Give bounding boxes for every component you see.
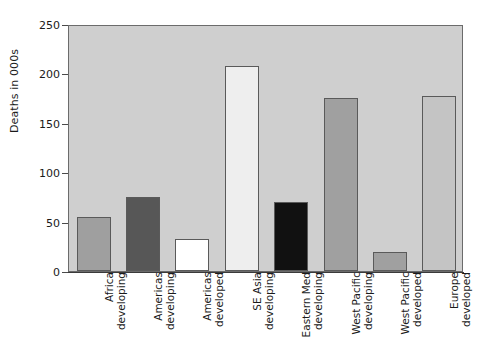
y-axis-tick-label: 250 xyxy=(30,19,60,32)
x-axis-tick-label-line: developing xyxy=(263,272,275,344)
bar xyxy=(225,66,259,271)
x-axis-tick-label-line: West Pacific xyxy=(400,272,412,344)
y-axis-tick-labels: 050100150200250 xyxy=(30,15,60,285)
y-axis-tick-mark xyxy=(62,173,68,174)
x-axis-tick-label-line: SE Asia xyxy=(252,272,264,344)
x-axis-tick-label: Europedeveloped xyxy=(449,272,479,344)
x-axis-tick-labels: AfricadevelopingAmericasdevelopingAmeric… xyxy=(68,274,463,346)
x-axis-tick-label-line: West Pacific xyxy=(351,272,363,344)
y-axis-tick-mark xyxy=(62,124,68,125)
plot-area xyxy=(68,25,463,272)
x-axis-tick-label-line: developed xyxy=(411,272,423,344)
x-axis-tick-label-line: developed xyxy=(214,272,226,344)
y-axis-tick-label: 0 xyxy=(30,266,60,279)
y-axis-tick-label: 50 xyxy=(30,216,60,229)
bar xyxy=(422,96,456,271)
y-axis-tick-mark xyxy=(62,74,68,75)
x-axis-tick-label-line: Americas xyxy=(153,272,165,344)
y-axis-tick-label: 150 xyxy=(30,117,60,130)
x-axis-tick-label-line: Eastern Med xyxy=(301,272,313,344)
x-axis-tick-label-line: developing xyxy=(165,272,177,344)
bar xyxy=(77,217,111,271)
bar xyxy=(126,197,160,271)
x-axis-tick-label-line: developing xyxy=(115,272,127,344)
bar xyxy=(324,98,358,271)
bar-chart-figure: Deaths in 000s 050100150200250 Africadev… xyxy=(0,0,479,346)
y-axis-tick-mark xyxy=(62,272,68,273)
x-axis-tick-label-line: Africa xyxy=(104,272,116,344)
bar xyxy=(373,252,407,271)
bars-layer xyxy=(69,26,462,271)
bar xyxy=(274,202,308,271)
bar xyxy=(175,239,209,271)
x-axis-tick-label-line: developing xyxy=(362,272,374,344)
y-axis-tick-label: 100 xyxy=(30,167,60,180)
y-axis-tick-mark xyxy=(62,25,68,26)
y-axis-tick-label: 200 xyxy=(30,68,60,81)
y-axis-title: Deaths in 000s xyxy=(8,13,21,133)
x-axis-tick-label-line: developed xyxy=(461,272,473,344)
y-axis-tick-mark xyxy=(62,223,68,224)
x-axis-tick-label-line: developing xyxy=(313,272,325,344)
